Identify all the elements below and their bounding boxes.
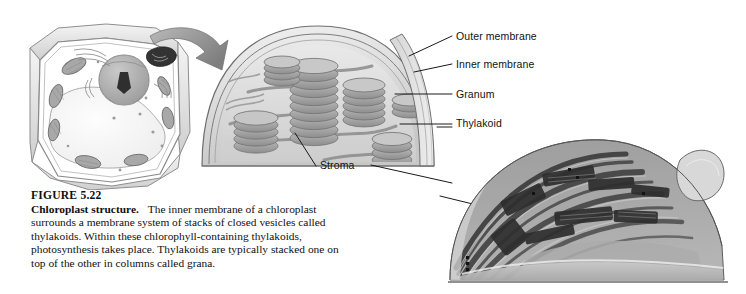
figure-title: Chloroplast structure.: [31, 203, 139, 215]
figure-number: FIGURE 5.22: [31, 189, 343, 203]
figure-5-22: Outer membrane Inner membrane Granum Thy…: [0, 0, 746, 294]
granum-stack: [234, 111, 278, 153]
chloroplast-electron-micrograph: [436, 118, 736, 290]
label-stroma: Stroma: [320, 159, 354, 171]
granum-stack: [264, 56, 300, 86]
figure-caption: FIGURE 5.22 Chloroplast structure.The in…: [31, 189, 343, 271]
granum-stack: [343, 78, 385, 127]
granum-stack: [372, 132, 412, 166]
label-inner-membrane: Inner membrane: [456, 58, 534, 70]
label-outer-membrane: Outer membrane: [456, 30, 537, 42]
label-granum: Granum: [456, 88, 495, 100]
label-thylakoid: Thylakoid: [456, 117, 502, 129]
